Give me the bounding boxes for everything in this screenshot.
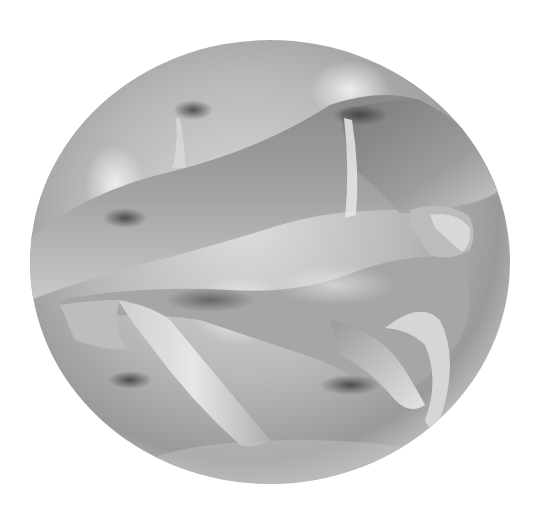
surface-illustration (0, 0, 542, 517)
rendered-surface-image: Grayscale 3D render of a self-intersecti… (0, 0, 542, 517)
